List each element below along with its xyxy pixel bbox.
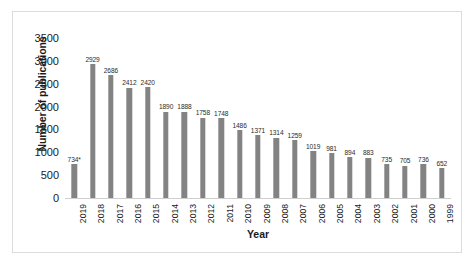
bar-group: 24202015 bbox=[139, 38, 157, 198]
x-axis-tick-label: 2010 bbox=[243, 204, 253, 223]
bar-value-label: 1758 bbox=[196, 109, 210, 116]
bar-value-label: 1259 bbox=[288, 132, 302, 139]
y-axis-tick-label: 0 bbox=[53, 192, 59, 204]
chart-figure: Number of publications 35003000250020001… bbox=[12, 11, 462, 253]
bar bbox=[439, 168, 444, 198]
y-axis-tick-label: 3000 bbox=[35, 55, 59, 67]
bar bbox=[163, 112, 168, 198]
y-axis-tick-label: 3500 bbox=[35, 32, 59, 44]
bar-value-label: 1748 bbox=[214, 110, 228, 117]
bar-group: 14862010 bbox=[230, 38, 248, 198]
bar-value-label: 705 bbox=[400, 157, 411, 164]
bar-group: 24122016 bbox=[120, 38, 138, 198]
bar-value-label: 652 bbox=[436, 160, 447, 167]
bar-value-label: 883 bbox=[363, 149, 374, 156]
x-axis-tick-label: 2012 bbox=[206, 204, 216, 223]
bar bbox=[329, 153, 334, 198]
bar-group: 26862017 bbox=[102, 38, 120, 198]
bar-value-label: 734* bbox=[68, 156, 81, 163]
bar-group: 12592007 bbox=[286, 38, 304, 198]
bar bbox=[237, 130, 242, 198]
bar-group: 17582012 bbox=[194, 38, 212, 198]
bar-group: 13712009 bbox=[249, 38, 267, 198]
bar-group: 8942004 bbox=[341, 38, 359, 198]
x-axis-tick-label: 2014 bbox=[170, 204, 180, 223]
bar bbox=[71, 164, 76, 198]
bar-group: 18902014 bbox=[157, 38, 175, 198]
bar bbox=[310, 151, 315, 198]
bar bbox=[145, 87, 150, 198]
x-axis-tick-label: 2005 bbox=[335, 204, 345, 223]
bar-value-label: 735 bbox=[381, 156, 392, 163]
bar-value-label: 1019 bbox=[306, 143, 320, 150]
x-axis-tick-label: 2006 bbox=[317, 204, 327, 223]
x-axis-line bbox=[65, 198, 451, 199]
bar bbox=[108, 75, 113, 198]
bar bbox=[200, 118, 205, 198]
x-axis-tick-label: 2007 bbox=[298, 204, 308, 223]
x-axis-tick-label: 2004 bbox=[353, 204, 363, 223]
bar-value-label: 2686 bbox=[104, 67, 118, 74]
bar-value-label: 1486 bbox=[232, 122, 246, 129]
x-axis-tick-label: 2001 bbox=[409, 204, 419, 223]
x-axis-tick-label: 2002 bbox=[390, 204, 400, 223]
y-axis-tick-label: 1000 bbox=[35, 146, 59, 158]
bar bbox=[347, 157, 352, 198]
x-axis-title: Year bbox=[65, 228, 451, 240]
bar-value-label: 2420 bbox=[141, 79, 155, 86]
bar-group: 10192006 bbox=[304, 38, 322, 198]
x-axis-tick-label: 2003 bbox=[372, 204, 382, 223]
y-axis-tick-label: 2000 bbox=[35, 101, 59, 113]
bar-group: 9812005 bbox=[322, 38, 340, 198]
y-axis-tick-label: 1500 bbox=[35, 123, 59, 135]
bar bbox=[274, 138, 279, 198]
bar bbox=[90, 64, 95, 198]
bar bbox=[219, 118, 224, 198]
bar-group: 7352002 bbox=[377, 38, 395, 198]
bar-value-label: 1314 bbox=[269, 129, 283, 136]
plot-area: 3500300025002000150010005000 734*2019292… bbox=[65, 38, 451, 198]
bar-value-label: 1371 bbox=[251, 127, 265, 134]
bar bbox=[366, 158, 371, 198]
x-axis-tick-label: 1999 bbox=[445, 204, 455, 223]
x-axis-tick-label: 2011 bbox=[225, 204, 235, 222]
bar-group: 6521999 bbox=[433, 38, 451, 198]
bar-group: 7362000 bbox=[414, 38, 432, 198]
bar-value-label: 736 bbox=[418, 156, 429, 163]
x-axis-tick-label: 2008 bbox=[280, 204, 290, 223]
bar-group: 734*2019 bbox=[65, 38, 83, 198]
bar-value-label: 2412 bbox=[122, 79, 136, 86]
bar bbox=[127, 88, 132, 198]
bar-group: 7052001 bbox=[396, 38, 414, 198]
bar bbox=[384, 164, 389, 198]
bar bbox=[182, 112, 187, 198]
x-axis-tick-label: 2009 bbox=[262, 204, 272, 223]
bar bbox=[402, 166, 407, 198]
bar bbox=[421, 164, 426, 198]
y-axis-tick-label: 500 bbox=[41, 169, 59, 181]
bar-group: 18882013 bbox=[175, 38, 193, 198]
x-axis-tick-label: 2019 bbox=[78, 204, 88, 223]
x-axis-tick-label: 2013 bbox=[188, 204, 198, 223]
bar-value-label: 2929 bbox=[85, 56, 99, 63]
x-axis-tick-label: 2015 bbox=[151, 204, 161, 223]
bar-value-label: 894 bbox=[345, 149, 356, 156]
bar-group: 13142008 bbox=[267, 38, 285, 198]
x-axis-tick-label: 2018 bbox=[96, 204, 106, 223]
bar-group: 17482011 bbox=[212, 38, 230, 198]
y-axis-tick-label: 2500 bbox=[35, 78, 59, 90]
bar bbox=[292, 140, 297, 198]
x-axis-tick-label: 2016 bbox=[133, 204, 143, 223]
bar-group: 8832003 bbox=[359, 38, 377, 198]
x-axis-tick-label: 2017 bbox=[115, 204, 125, 223]
x-axis-tick-label: 2000 bbox=[427, 204, 437, 223]
bar-value-label: 981 bbox=[326, 145, 337, 152]
bar-value-label: 1890 bbox=[159, 103, 173, 110]
bar-group: 29292018 bbox=[83, 38, 101, 198]
bar bbox=[255, 135, 260, 198]
bar-value-label: 1888 bbox=[177, 103, 191, 110]
